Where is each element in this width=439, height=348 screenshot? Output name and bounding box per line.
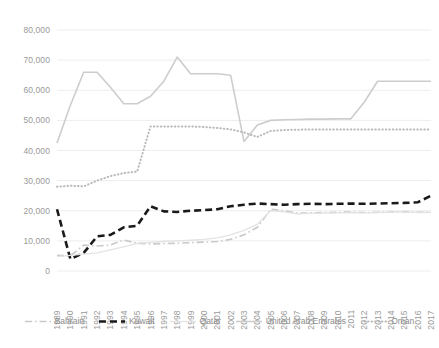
y-axis-tick-label: 50,000 xyxy=(23,116,50,125)
plot-area xyxy=(57,30,431,271)
dash-line-icon xyxy=(99,317,125,326)
solid-line-icon xyxy=(170,317,196,326)
solid-line-icon xyxy=(236,317,262,326)
y-axis-tick-label: 60,000 xyxy=(23,86,50,95)
legend-item-qatar[interactable]: Qatar xyxy=(170,317,221,326)
legend-item-united-arab-emirates[interactable]: United Arab Emirates xyxy=(236,317,346,326)
series-line-oman xyxy=(57,126,431,186)
x-axis: 1989199019911992199319941995199619971998… xyxy=(57,274,431,310)
legend-label: Qatar xyxy=(200,317,221,326)
chart-legend: BahrainKuwaitQatarUnited Arab EmiratesOm… xyxy=(0,313,439,329)
y-axis-tick-label: 40,000 xyxy=(23,146,50,155)
legend-item-bahrain[interactable]: Bahrain xyxy=(25,317,84,326)
y-axis: 010,00020,00030,00040,00050,00060,00070,… xyxy=(0,0,57,292)
y-axis-tick-label: 80,000 xyxy=(23,26,50,35)
legend-label: United Arab Emirates xyxy=(266,317,346,326)
legend-item-oman[interactable]: Oman xyxy=(361,317,414,326)
y-axis-tick-label: 0 xyxy=(45,267,50,276)
data-series-layer xyxy=(57,30,431,271)
y-axis-tick-label: 30,000 xyxy=(23,176,50,185)
legend-item-kuwait[interactable]: Kuwait xyxy=(99,317,155,326)
dotted-line-icon xyxy=(361,317,387,326)
legend-label: Bahrain xyxy=(55,317,84,326)
legend-label: Oman xyxy=(391,317,414,326)
dash-dot-line-icon xyxy=(25,317,51,326)
y-axis-tick-label: 20,000 xyxy=(23,207,50,216)
legend-label: Kuwait xyxy=(129,317,155,326)
line-chart: 010,00020,00030,00040,00050,00060,00070,… xyxy=(0,0,439,348)
y-axis-tick-label: 70,000 xyxy=(23,56,50,65)
y-axis-tick-label: 10,000 xyxy=(23,237,50,246)
